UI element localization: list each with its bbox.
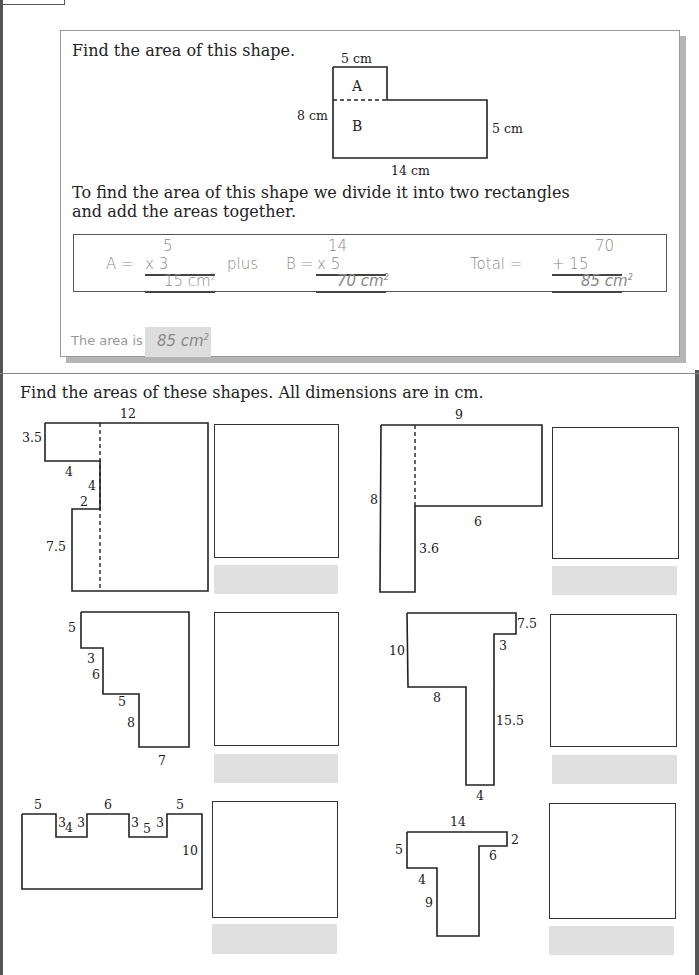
shape-6-label-right: 2 bbox=[511, 832, 519, 847]
shape-5-answer-field[interactable] bbox=[212, 924, 337, 954]
region-a-label: A bbox=[352, 78, 362, 94]
calc-b-mult: x 5 bbox=[317, 255, 340, 273]
shape-1-label-step1: 4 bbox=[65, 464, 73, 479]
example-left-label: 8 cm bbox=[297, 108, 328, 123]
shape-3-label-4: 5 bbox=[118, 694, 126, 709]
shape-2-label-left: 8 bbox=[370, 492, 378, 507]
calc-total-label: Total = bbox=[470, 255, 522, 273]
shape-4-label-left: 10 bbox=[389, 643, 405, 658]
explanation-line-1: To find the area of this shape we divide… bbox=[72, 183, 570, 202]
shape-6-label-inner: 6 bbox=[489, 848, 497, 863]
shape-1-label-top: 12 bbox=[120, 406, 136, 421]
shape-1-answer-field[interactable] bbox=[214, 565, 338, 594]
calc-a-mult: x 3 bbox=[145, 255, 168, 273]
shape-1-diagram bbox=[45, 423, 210, 593]
shape-1-working-box[interactable] bbox=[214, 424, 339, 558]
shape-4-label-inner: 3 bbox=[499, 638, 507, 653]
shape-5-label-n2a: 3 bbox=[131, 815, 139, 830]
calc-a-underline bbox=[145, 291, 215, 293]
calc-b-label: B = bbox=[286, 255, 313, 273]
shape-5-label-right: 10 bbox=[182, 843, 198, 858]
example-answer-chip: 85 cm2 bbox=[145, 327, 211, 357]
calc-a-result: 15 cm2 bbox=[164, 272, 216, 290]
shape-4-label-stem: 15.5 bbox=[496, 713, 524, 728]
calc-total-result: 85 cm2 bbox=[581, 272, 633, 290]
shape-6-label-under: 4 bbox=[418, 872, 426, 887]
example-top-label: 5 cm bbox=[341, 51, 372, 66]
shape-2-label-bottom-top: 6 bbox=[474, 514, 482, 529]
shape-1-label-left-bottom: 7.5 bbox=[46, 539, 66, 554]
shape-4-label-bottom: 4 bbox=[476, 788, 484, 803]
calculation-box: A = 5 x 3 15 cm2 plus B = 14 x 5 70 cm2 … bbox=[73, 234, 667, 292]
explanation-line-2: and add the areas together. bbox=[72, 202, 296, 221]
shape-5-diagram bbox=[22, 814, 204, 892]
shape-5-label-t2: 6 bbox=[104, 797, 112, 812]
calc-b-result: 70 cm2 bbox=[337, 272, 389, 290]
answer-label: The area is bbox=[71, 333, 143, 348]
page-edge-left bbox=[0, 0, 3, 975]
shape-1-label-step2: 4 bbox=[88, 478, 96, 493]
shape-3-answer-field[interactable] bbox=[214, 754, 338, 783]
shape-6-label-left: 5 bbox=[395, 842, 403, 857]
shape-6-label-stem: 9 bbox=[425, 895, 433, 910]
shape-3-label-3: 6 bbox=[92, 667, 100, 682]
section-divider bbox=[0, 373, 699, 374]
calc-a-label: A = bbox=[106, 255, 134, 273]
shape-2-answer-field[interactable] bbox=[552, 566, 677, 595]
example-bottom-label: 14 cm bbox=[391, 163, 430, 178]
shape-5-label-t3: 5 bbox=[176, 797, 184, 812]
shape-3-label-6: 7 bbox=[158, 753, 166, 768]
shape-6-label-top: 14 bbox=[450, 814, 466, 829]
shape-3-label-1: 5 bbox=[68, 620, 76, 635]
shape-1-label-step3: 2 bbox=[80, 494, 88, 509]
shape-5-label-n1b: 4 bbox=[65, 820, 73, 835]
example-answer-value: 85 cm2 bbox=[157, 332, 209, 350]
calc-plus: plus bbox=[227, 255, 258, 273]
shape-2-working-box[interactable] bbox=[552, 427, 679, 559]
shape-5-label-n1c: 3 bbox=[77, 815, 85, 830]
shape-6-working-box[interactable] bbox=[549, 803, 676, 919]
shape-2-diagram bbox=[381, 425, 546, 595]
shape-4-working-box[interactable] bbox=[550, 614, 677, 747]
shape-3-label-2: 3 bbox=[87, 651, 95, 666]
calc-b-underline bbox=[316, 291, 386, 293]
shape-3-working-box[interactable] bbox=[214, 612, 339, 746]
shape-3-label-5: 8 bbox=[127, 715, 135, 730]
shape-4-answer-field[interactable] bbox=[552, 755, 677, 784]
calc-b-top: 14 bbox=[328, 237, 347, 255]
shape-1-label-left-top: 3.5 bbox=[22, 430, 42, 445]
region-b-label: B bbox=[352, 118, 362, 134]
shape-4-label-right-top: 7.5 bbox=[517, 616, 537, 631]
shape-5-label-t1: 5 bbox=[34, 797, 42, 812]
shape-4-label-under: 8 bbox=[433, 690, 441, 705]
shape-5-label-n2c: 3 bbox=[156, 815, 164, 830]
example-prompt: Find the area of this shape. bbox=[72, 41, 295, 60]
corner-tab bbox=[0, 0, 65, 5]
worked-example-panel: Find the area of this shape. 5 cm 8 cm 5… bbox=[60, 30, 680, 357]
shape-5-label-n2b: 5 bbox=[143, 821, 151, 836]
calc-total-top: 70 bbox=[595, 237, 614, 255]
shape-5-working-box[interactable] bbox=[212, 801, 338, 918]
calc-a-top: 5 bbox=[163, 237, 173, 255]
exercise-heading: Find the areas of these shapes. All dime… bbox=[20, 383, 484, 402]
shape-2-label-stem: 3.6 bbox=[419, 541, 439, 556]
shape-6-answer-field[interactable] bbox=[549, 926, 674, 955]
calc-total-underline bbox=[552, 291, 622, 293]
example-right-label: 5 cm bbox=[492, 121, 523, 136]
calc-total-add: + 15 bbox=[552, 255, 588, 273]
shape-2-label-top: 9 bbox=[455, 407, 463, 422]
page-edge-right bbox=[695, 370, 699, 975]
